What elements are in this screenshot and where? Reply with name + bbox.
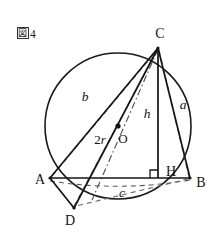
- segment-ac: [50, 48, 158, 178]
- vertex-dot-d: [72, 206, 75, 209]
- label-diameter-2r: 2r: [94, 132, 106, 148]
- label-diameter-2r-radius: r: [101, 132, 106, 147]
- label-side-a: a: [180, 97, 187, 113]
- figure-caption: 図4: [17, 27, 36, 41]
- label-point-d: D: [65, 213, 75, 229]
- label-center-o: O: [118, 131, 127, 147]
- label-point-c: C: [155, 26, 164, 42]
- vertex-dot-a: [48, 176, 51, 179]
- vertex-dot-b: [188, 176, 191, 179]
- right-angle-marker-h: [150, 170, 158, 178]
- label-point-a: A: [35, 172, 45, 188]
- center-point-dot: [115, 123, 120, 128]
- label-point-h: H: [166, 164, 176, 180]
- figure-container: 図4 A B C D H O a b c h 2r: [0, 0, 221, 243]
- label-height-h: h: [144, 106, 151, 122]
- label-side-c: c: [119, 185, 125, 201]
- label-side-b: b: [82, 89, 89, 105]
- label-point-b: B: [196, 175, 205, 191]
- figure-caption-number: 4: [30, 28, 36, 40]
- segment-cb: [158, 48, 190, 178]
- segment-cd-diameter: [74, 48, 158, 208]
- figure-caption-glyph: 図: [17, 27, 29, 39]
- vertex-dot-c: [156, 46, 159, 49]
